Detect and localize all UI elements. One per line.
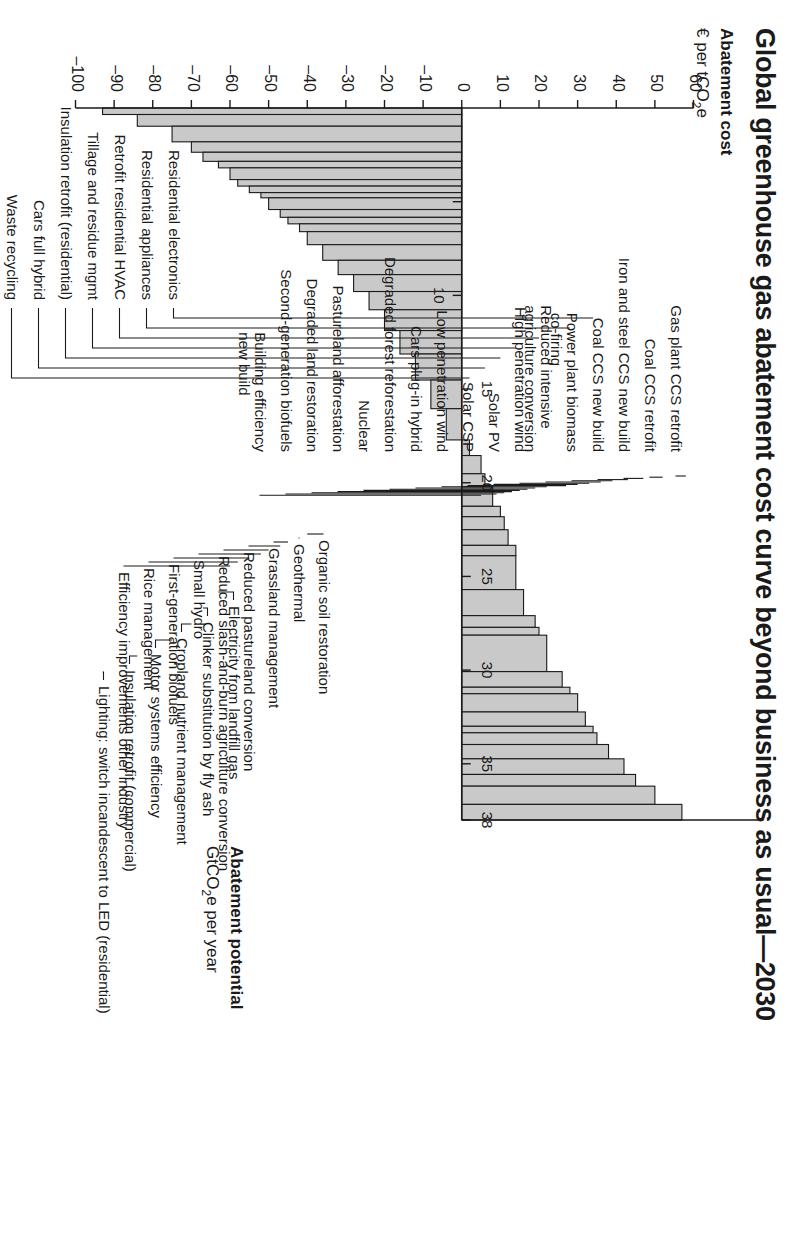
cost-curve-bar — [461, 627, 538, 635]
callout-mid-3: Reduced pastureland conversion — [240, 552, 256, 771]
cost-curve-bar — [338, 260, 462, 274]
callout-1: Coal CCS retrofit — [641, 339, 657, 452]
cost-axis-tick-label: 30 — [569, 74, 587, 92]
cost-curve-bar — [280, 210, 462, 218]
callout-negative-1: Clinker substitution by fly ash — [199, 622, 215, 816]
cost-axis-tick-label: –80 — [144, 65, 162, 92]
cost-curve-bar — [461, 774, 635, 786]
cost-curve-bar — [461, 672, 561, 688]
callout-8: Solar CSP — [459, 382, 475, 452]
cost-curve-bar — [202, 152, 461, 161]
callout-negative-3: Motor systems efficiency — [147, 654, 163, 818]
cost-curve-bar — [461, 694, 577, 712]
cost-curve-bar — [299, 224, 461, 232]
callout-positive-6: Waste recycling — [3, 195, 19, 300]
potential-axis-tick-label: 38 — [478, 812, 495, 829]
cost-curve-bar — [461, 635, 546, 671]
cost-curve-bar — [137, 115, 461, 127]
potential-axis-tick-label: 30 — [478, 662, 495, 679]
cost-curve-bar — [461, 545, 515, 555]
callout-7: Solar PV — [485, 393, 501, 452]
callout-6: High penetration wind — [511, 307, 527, 452]
cost-curve-bar — [461, 590, 523, 616]
cost-curve-bar — [461, 530, 507, 546]
cost-axis-tick-label: 50 — [646, 74, 664, 92]
cost-curve-bar — [461, 687, 569, 694]
cost-axis-tick-label: –100 — [67, 56, 85, 92]
cost-axis-tick-label: –10 — [415, 65, 433, 92]
cost-curve-bar — [268, 198, 461, 210]
callout-14: Degraded land restoration — [303, 279, 319, 452]
callout-3: Coal CCS new build — [589, 318, 605, 452]
callout-2: Iron and steel CCS new build — [615, 258, 631, 452]
cost-curve-bar — [237, 180, 461, 187]
callout-mid-2: Grassland management — [265, 548, 281, 708]
callout-negative-2: Cropland nutrient management — [173, 638, 189, 845]
cost-curve-bar — [230, 168, 462, 180]
callout-10: Cars plug-in hybrid — [407, 326, 423, 452]
cost-axis-tick-label: –50 — [260, 65, 278, 92]
callout-positive-0: Residential electronics — [165, 150, 181, 300]
cost-curve-bar — [461, 733, 596, 745]
cost-curve-bar — [461, 506, 500, 516]
cost-axis-tick-label: 40 — [608, 74, 626, 92]
callout-positive-5: Cars full hybrid — [30, 200, 46, 300]
cost-axis-tick-label: –70 — [183, 65, 201, 92]
cost-curve-bar — [461, 456, 480, 474]
potential-axis-tick-label: 20 — [478, 474, 495, 491]
callout-positive-3: Tillage and residue mgmt — [84, 132, 100, 300]
cost-axis-tick-label: 20 — [531, 74, 549, 92]
callout-0: Gas plant CCS retrofit — [667, 305, 683, 452]
callout-positive-1: Residential appliances — [138, 150, 154, 300]
cost-curve-bar — [307, 232, 462, 245]
callout-mid-1: Geothermal — [290, 544, 306, 622]
cost-curve-bar — [461, 786, 654, 804]
cost-curve-bar — [287, 217, 461, 224]
callout-positive-4: Insulation retrofit (residential) — [57, 107, 73, 300]
potential-axis-tick-label: 35 — [478, 755, 495, 772]
cost-curve-bar — [172, 126, 462, 142]
callout-15: Second-generation biofuels — [277, 269, 293, 452]
cost-curve-bar — [102, 108, 461, 115]
chart-canvas: Global greenhouse gas abatement cost cur… — [0, 0, 801, 1242]
cost-curve-bar — [461, 517, 503, 530]
callout-9: Low penetration wind — [433, 310, 449, 452]
callout-13: Pastureland afforestation — [329, 285, 345, 452]
callout-negative-4: Insulation retrofit (commercial) — [121, 670, 137, 872]
cost-axis-tick-label: –60 — [222, 65, 240, 92]
cost-curve-bar — [260, 193, 461, 198]
abatement-cost-curve-plot: 6050403020100–10–20–30–40–50–60–70–80–90… — [0, 0, 801, 1242]
cost-axis-tick-label: –90 — [106, 65, 124, 92]
callout-11: Degraded forest reforestation — [381, 257, 397, 452]
cost-curve-bar — [191, 142, 461, 152]
cost-curve-bar — [218, 161, 461, 168]
callout-negative-5: Lighting: switch incandescent to LED (re… — [95, 686, 111, 1014]
cost-axis-tick-label: 60 — [685, 74, 703, 92]
cost-axis-tick-label: 10 — [492, 74, 510, 92]
cost-axis-tick-label: –30 — [337, 65, 355, 92]
callout-negative-0: Electricity from landfill gas — [225, 606, 241, 779]
cost-curve-bar — [461, 712, 585, 726]
cost-curve-bar — [249, 186, 461, 193]
callout-16: Building efficiency new build — [236, 332, 268, 452]
callout-positive-2: Retrofit residential HVAC — [111, 134, 127, 300]
callout-mid-0: Organic soil restoration — [315, 540, 331, 694]
potential-axis-tick-label: 25 — [478, 568, 495, 585]
cost-curve-bar — [461, 726, 592, 733]
callout-12: Nuclear — [355, 400, 371, 452]
potential-axis-tick-label: 10 — [430, 287, 447, 304]
chart-rotated-container: Global greenhouse gas abatement cost cur… — [0, 0, 801, 1242]
cost-axis-tick-label: 0 — [453, 83, 471, 92]
cost-axis-tick-label: –20 — [376, 65, 394, 92]
cost-axis-tick-label: –40 — [299, 65, 317, 92]
cost-curve-bar — [461, 616, 534, 628]
